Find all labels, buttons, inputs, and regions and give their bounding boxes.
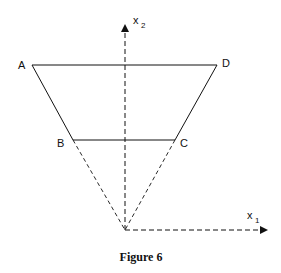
- x2-label: x: [133, 14, 139, 26]
- label-b: B: [57, 137, 64, 149]
- x1-subscript: 1: [255, 216, 260, 225]
- figure-6-diagram: A D B C x 2 x 1 Figure 6: [0, 0, 281, 273]
- label-d: D: [222, 57, 230, 69]
- dashed-line-b-origin: [73, 140, 125, 230]
- dashed-line-c-origin: [125, 140, 175, 230]
- figure-caption: Figure 6: [120, 250, 163, 264]
- label-a: A: [18, 59, 26, 71]
- label-c: C: [180, 137, 188, 149]
- x2-subscript: 2: [141, 21, 146, 30]
- x1-label: x: [247, 209, 253, 221]
